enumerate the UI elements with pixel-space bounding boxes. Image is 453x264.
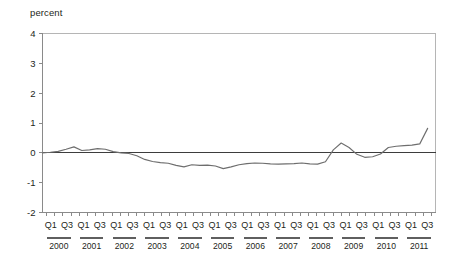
x-tick-label: Q1 (372, 220, 384, 230)
x-tick-label: Q3 (192, 220, 204, 230)
y-tick-label: 3 (30, 58, 35, 69)
x-tick-label: Q3 (258, 220, 270, 230)
x-tick-label: Q1 (208, 220, 220, 230)
y-tick-label: 2 (30, 88, 35, 99)
x-tick-label: Q3 (389, 220, 401, 230)
year-group-label: 2004 (180, 241, 199, 251)
year-group-label: 2008 (311, 241, 330, 251)
year-group-label: 2005 (213, 241, 232, 251)
year-group-label: 2007 (279, 241, 298, 251)
quarter-tick-labels: Q1Q3Q1Q3Q1Q3Q1Q3Q1Q3Q1Q3Q1Q3Q1Q3Q1Q3Q1Q3… (45, 220, 434, 230)
chart-figure: percent 43210-1-2 Q1Q3Q1Q3Q1Q3Q1Q3Q1Q3Q1… (0, 0, 453, 264)
x-tick-label: Q1 (405, 220, 417, 230)
x-tick-label: Q1 (110, 220, 122, 230)
year-group-label: 2001 (82, 241, 101, 251)
x-tick-label: Q1 (274, 220, 286, 230)
x-tick-label: Q3 (323, 220, 335, 230)
x-tick-label: Q1 (241, 220, 253, 230)
y-tick-label: 0 (30, 147, 35, 158)
plot-frame (43, 34, 436, 213)
x-axis-ticks (47, 213, 432, 217)
x-tick-label: Q1 (143, 220, 155, 230)
x-tick-label: Q1 (77, 220, 89, 230)
year-group-label: 2003 (148, 241, 167, 251)
x-tick-label: Q3 (94, 220, 106, 230)
x-tick-label: Q3 (159, 220, 171, 230)
year-group-label: 2006 (246, 241, 265, 251)
year-group-label: 2009 (344, 241, 363, 251)
year-group-labels: 2000200120022003200420052006200720082009… (47, 238, 431, 251)
x-tick-label: Q3 (127, 220, 139, 230)
line-chart-plot: 43210-1-2 Q1Q3Q1Q3Q1Q3Q1Q3Q1Q3Q1Q3Q1Q3Q1… (0, 0, 453, 264)
year-group-label: 2011 (410, 241, 429, 251)
y-tick-label: -1 (27, 177, 35, 188)
x-tick-label: Q3 (290, 220, 302, 230)
x-tick-label: Q1 (307, 220, 319, 230)
data-series-line (43, 128, 428, 168)
year-group-label: 2000 (49, 241, 68, 251)
y-tick-label: -2 (27, 207, 35, 218)
x-tick-label: Q1 (339, 220, 351, 230)
x-tick-label: Q3 (61, 220, 73, 230)
y-axis-ticks: 43210-1-2 (27, 28, 42, 218)
x-tick-label: Q3 (356, 220, 368, 230)
y-tick-label: 4 (30, 28, 35, 39)
y-tick-label: 1 (30, 117, 35, 128)
x-tick-label: Q1 (45, 220, 57, 230)
x-tick-label: Q3 (225, 220, 237, 230)
x-tick-label: Q1 (176, 220, 188, 230)
x-tick-label: Q3 (421, 220, 433, 230)
year-group-label: 2002 (115, 241, 134, 251)
year-group-label: 2010 (377, 241, 396, 251)
